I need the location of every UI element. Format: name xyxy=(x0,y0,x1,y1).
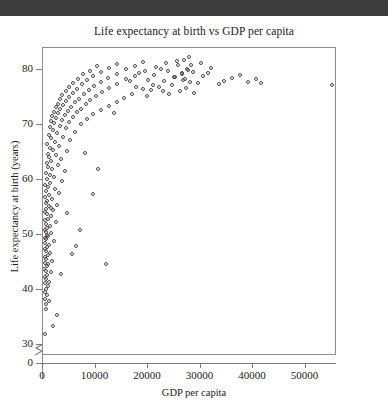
plot-frame xyxy=(42,47,336,355)
data-point xyxy=(49,231,53,235)
data-point xyxy=(188,80,192,84)
data-point xyxy=(75,110,79,114)
data-point xyxy=(85,117,89,121)
data-point xyxy=(45,161,49,165)
data-point xyxy=(167,92,171,96)
data-point xyxy=(161,89,165,93)
data-point xyxy=(187,55,191,59)
data-point xyxy=(71,81,75,85)
data-point xyxy=(48,251,52,255)
data-point xyxy=(47,193,51,197)
data-point xyxy=(154,65,158,69)
y-axis-tick xyxy=(36,289,42,290)
x-axis-tick xyxy=(252,363,253,368)
data-point xyxy=(79,107,83,111)
data-point xyxy=(55,131,59,135)
data-point xyxy=(115,82,119,86)
data-point xyxy=(50,259,54,263)
data-point xyxy=(48,224,52,228)
data-point xyxy=(201,74,205,78)
y-axis-tick xyxy=(36,124,42,125)
data-point xyxy=(52,239,56,243)
data-point xyxy=(50,167,54,171)
data-point xyxy=(52,110,56,114)
data-point xyxy=(91,112,95,116)
data-point xyxy=(259,81,263,85)
x-axis-tick xyxy=(95,363,96,368)
y-axis-tick-label: 30 xyxy=(0,338,33,349)
data-point xyxy=(88,69,92,73)
data-point xyxy=(50,197,54,201)
data-point xyxy=(82,92,86,96)
data-point xyxy=(45,142,49,146)
data-point xyxy=(159,67,163,71)
data-point xyxy=(104,262,108,266)
data-point xyxy=(199,61,203,65)
data-point xyxy=(56,111,60,115)
data-point xyxy=(173,75,177,79)
data-point xyxy=(54,153,58,157)
data-point xyxy=(55,313,59,317)
data-point xyxy=(49,206,53,210)
data-point xyxy=(115,62,119,66)
data-point xyxy=(60,118,64,122)
data-point xyxy=(99,70,103,74)
top-dark-band xyxy=(0,0,388,16)
x-axis-title: GDP per capita xyxy=(0,387,388,398)
data-point xyxy=(58,107,62,111)
data-point xyxy=(53,140,57,144)
x-axis-tick xyxy=(42,363,43,368)
data-point xyxy=(87,88,91,92)
x-axis-tick xyxy=(200,363,201,368)
data-point xyxy=(164,61,168,65)
data-point xyxy=(157,85,161,89)
data-point xyxy=(56,102,60,106)
data-point xyxy=(196,81,200,85)
data-point xyxy=(80,82,84,86)
data-point xyxy=(71,91,75,95)
data-point xyxy=(67,95,71,99)
data-point xyxy=(330,83,334,87)
data-point xyxy=(143,69,147,73)
data-point xyxy=(152,73,156,77)
x-axis-tick xyxy=(305,363,306,368)
data-point xyxy=(56,163,60,167)
data-point xyxy=(51,128,55,132)
data-point xyxy=(48,181,52,185)
data-point xyxy=(68,138,72,142)
data-point xyxy=(64,99,68,103)
screenshot-page: Life expectancy at birth vs GDP per capi… xyxy=(0,0,388,413)
data-point xyxy=(67,120,71,124)
data-point xyxy=(162,79,166,83)
data-point xyxy=(209,66,213,70)
data-point xyxy=(81,72,85,76)
data-point xyxy=(112,111,116,115)
data-point xyxy=(217,82,221,86)
data-point xyxy=(184,86,188,90)
data-point xyxy=(59,157,63,161)
data-point xyxy=(95,64,99,68)
data-point xyxy=(70,252,74,256)
data-point xyxy=(91,74,95,78)
data-point xyxy=(176,63,180,67)
data-point xyxy=(55,203,59,207)
data-point xyxy=(180,72,184,76)
data-point xyxy=(149,88,153,92)
data-point xyxy=(74,244,78,248)
data-point xyxy=(170,83,174,87)
data-point xyxy=(67,85,71,89)
data-point xyxy=(122,96,126,100)
data-point xyxy=(65,149,69,153)
data-point xyxy=(73,130,77,134)
data-point xyxy=(76,77,80,81)
data-point xyxy=(115,100,119,104)
data-point xyxy=(66,109,70,113)
x-axis-tick-label: 40000 xyxy=(222,370,282,381)
data-point xyxy=(79,122,83,126)
data-point xyxy=(151,83,155,87)
data-point xyxy=(130,92,134,96)
data-point xyxy=(47,243,51,247)
data-point xyxy=(73,100,77,104)
y-axis-tick-label: 80 xyxy=(0,63,33,74)
data-point xyxy=(54,220,58,224)
